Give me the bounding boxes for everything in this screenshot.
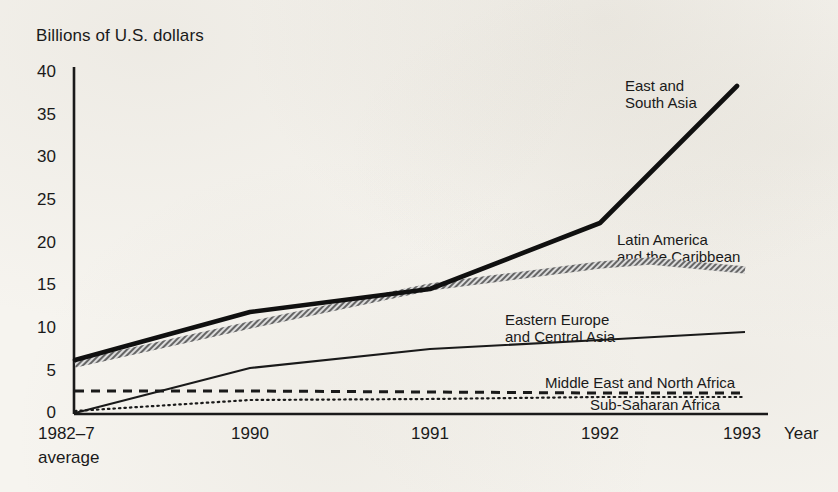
series-latin-america-caribbean-outline <box>75 261 745 364</box>
chart-plot-area <box>0 0 838 492</box>
series-latin-america-caribbean <box>75 261 745 364</box>
series-middle-east-north-africa <box>75 391 745 393</box>
series-east-south-asia <box>75 86 737 360</box>
series-sub-saharan-africa <box>75 397 745 411</box>
